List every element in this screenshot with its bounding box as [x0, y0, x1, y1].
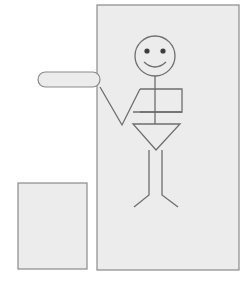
pill-bar[interactable] [38, 72, 100, 87]
figure-eye-right-icon [160, 48, 165, 53]
drawing-canvas: Stick figure with pointing arm inside pa… [0, 0, 249, 288]
scene-svg [0, 0, 249, 288]
small-square[interactable] [18, 183, 87, 269]
figure-eye-left-icon [144, 48, 149, 53]
